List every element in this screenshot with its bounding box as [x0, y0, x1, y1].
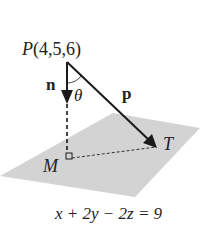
angle-arc [67, 76, 81, 83]
plane [0, 113, 200, 197]
angle-label: θ [74, 87, 82, 104]
diagram-canvas [0, 0, 200, 237]
normal-arrowhead-icon [61, 90, 73, 104]
plane-equation: x + 2y − 2z = 9 [55, 205, 162, 222]
target-label: T [163, 135, 173, 153]
point-label-letter: P [22, 39, 33, 59]
normal-label: n [46, 76, 55, 93]
foot-label: M [43, 157, 58, 175]
vector-label: p [122, 85, 131, 102]
point-coordinates: (4,5,6) [33, 39, 81, 59]
point-p-label: P(4,5,6) [22, 40, 81, 58]
